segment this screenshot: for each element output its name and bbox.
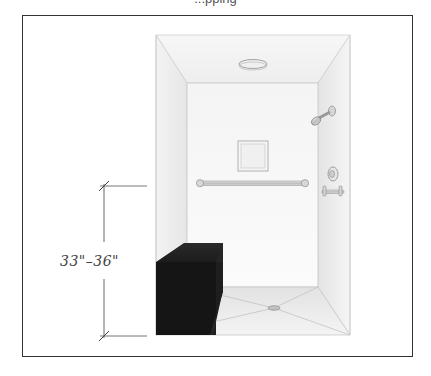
bench-seat xyxy=(156,243,223,335)
right-wall xyxy=(318,35,350,335)
valve-control-icon xyxy=(328,167,338,181)
floor-drain-icon xyxy=(268,306,280,310)
dimension-label: 33"–36" xyxy=(58,253,121,269)
ceiling-plane xyxy=(156,35,350,83)
shower-illustration xyxy=(0,0,431,376)
recessed-niche xyxy=(238,141,268,171)
